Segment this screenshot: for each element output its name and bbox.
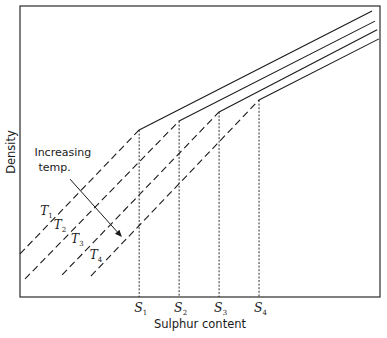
x-tick-label-s4: S4 [254, 300, 268, 317]
drop-lines-layer [139, 100, 259, 297]
series-t4-solid-segment [259, 39, 379, 100]
x-axis-label: Sulphur content [154, 317, 247, 331]
increasing-temp-arrow [70, 179, 117, 232]
x-tick-label-s3: S3 [214, 300, 227, 317]
series-label-subscript: 2 [62, 226, 66, 234]
x-tick-label-subscript: 2 [183, 309, 187, 317]
x-tick-label-subscript: 3 [223, 309, 227, 317]
series-t4-dashed-segment [91, 100, 259, 276]
x-tick-labels-layer: S1S2S3S4 [134, 300, 267, 317]
x-tick-label-main: S [134, 300, 143, 315]
series-label-subscript: 1 [48, 212, 52, 220]
x-tick-label-subscript: 1 [143, 309, 147, 317]
series-label-t2: T2 [54, 218, 66, 234]
annotation-layer: Increasing temp. [34, 146, 121, 237]
annotation-text-line-1: Increasing [34, 146, 91, 159]
x-tick-label-main: S [214, 300, 223, 315]
series-label-subscript: 3 [79, 240, 83, 248]
x-tick-label-s1: S1 [134, 300, 147, 317]
series-label-t3: T3 [71, 232, 83, 248]
y-axis-label: Density [4, 130, 18, 174]
series-label-subscript: 4 [98, 256, 103, 264]
x-tick-label-subscript: 4 [263, 309, 268, 317]
series-label-t4: T4 [90, 248, 103, 264]
series-t2-solid-segment [179, 21, 375, 121]
series-label-t1: T1 [40, 204, 52, 220]
x-tick-label-s2: S2 [174, 300, 187, 317]
density-vs-sulphur-chart: Increasing temp. T1T2T3T4 S1S2S3S4 Sulph… [0, 0, 387, 338]
series-labels-layer: T1T2T3T4 [40, 204, 103, 264]
series-t3-dashed-segment [62, 112, 219, 275]
series-t3-solid-segment [219, 30, 377, 112]
series-t1-solid-segment [139, 11, 372, 130]
x-tick-label-main: S [174, 300, 183, 315]
annotation-text-line-2: temp. [38, 161, 70, 174]
x-tick-label-main: S [254, 300, 263, 315]
